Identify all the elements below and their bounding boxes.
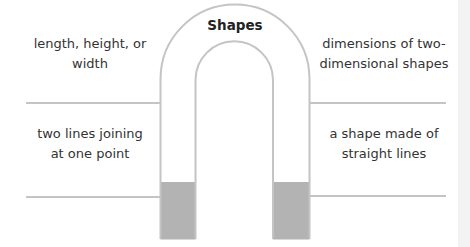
label-line: a shape made of [310,124,458,144]
label-line: at one point [18,144,162,164]
label-top-right: dimensions of two- dimensional shapes [310,34,458,74]
right-pole-fill [274,182,309,239]
left-pole-fill [161,182,195,239]
label-line: dimensional shapes [310,54,458,74]
label-line: length, height, or [18,34,162,54]
magnet-inner-outline [196,41,274,239]
label-line: width [18,54,162,74]
diagram-title: Shapes [195,17,275,33]
label-line: dimensions of two- [310,34,458,54]
label-line: straight lines [310,144,458,164]
label-bottom-left: two lines joining at one point [18,124,162,164]
label-top-left: length, height, or width [18,34,162,74]
label-bottom-right: a shape made of straight lines [310,124,458,164]
label-line: two lines joining [18,124,162,144]
